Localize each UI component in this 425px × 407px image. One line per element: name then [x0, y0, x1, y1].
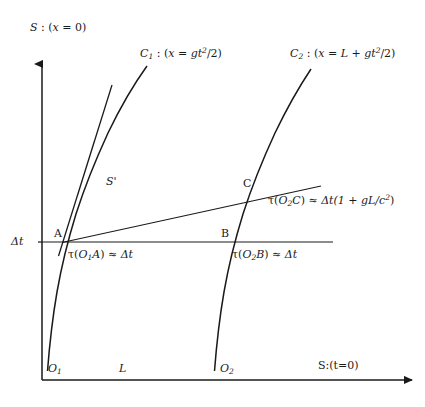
tangent-line-at-A [59, 85, 113, 256]
label-curve-C2: C2 : (x = L + gt2/2) [290, 47, 395, 61]
label-tau-O1A: τ(O1A) ≈ Δt [68, 249, 133, 262]
worldline-C1 [48, 66, 148, 371]
label-curve-C1: C1 : (x = gt2/2) [140, 47, 222, 61]
label-length-L: L [119, 363, 126, 374]
spacetime-diagram-figure: S : (x = 0) C1 : (x = gt2/2) C2 : (x = L… [0, 0, 425, 407]
point-label-A: A [54, 228, 62, 239]
point-label-C: C [243, 178, 251, 189]
label-frame-S: S : (x = 0) [30, 22, 86, 33]
label-tau-O2C: τ(O2C) ≈ Δt(1 + gL/c2) [268, 194, 394, 208]
label-tau-O2B: τ(O2B) ≈ Δt [232, 249, 297, 262]
x-axis-label: S:(t=0) [318, 360, 358, 371]
point-label-B: B [221, 228, 229, 239]
axis-tick-label-delta-t: Δt [11, 236, 23, 247]
label-frame-S-prime: S' [106, 176, 117, 187]
label-origin-O1: O1 [48, 363, 62, 376]
worldline-C2 [215, 69, 312, 371]
label-origin-O2: O2 [220, 363, 234, 376]
